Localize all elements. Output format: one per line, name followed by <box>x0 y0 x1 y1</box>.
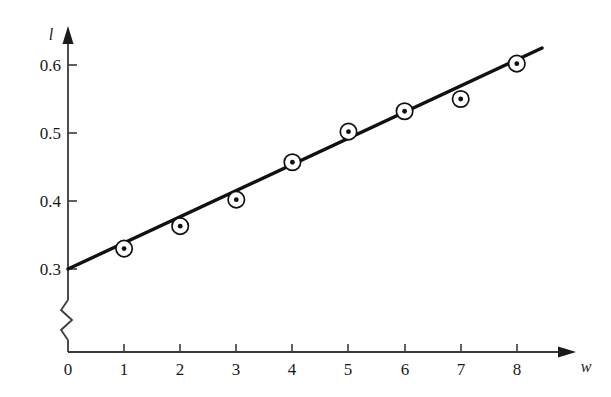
x-tick-label-8: 8 <box>513 360 522 379</box>
x-tick-label-6: 6 <box>401 360 410 379</box>
y-axis-arrow-icon <box>63 26 74 44</box>
data-point-marker <box>340 123 356 139</box>
x-axis-arrow-icon <box>558 347 576 358</box>
x-tick-label-5: 5 <box>344 360 353 379</box>
fitted-trend-line <box>68 48 542 269</box>
y-tick-label-06: 0.6 <box>40 56 61 75</box>
x-tick-label-0: 0 <box>64 360 73 379</box>
x-tick-label-1: 1 <box>120 360 129 379</box>
marker-center-dot <box>178 224 183 229</box>
data-point-marker <box>116 240 132 256</box>
marker-center-dot <box>234 197 239 202</box>
x-axis-title: w <box>581 358 592 375</box>
data-point-marker <box>453 91 469 107</box>
marker-center-dot <box>122 246 127 251</box>
marker-center-dot <box>346 129 351 134</box>
y-tick-label-04: 0.4 <box>40 192 62 211</box>
x-tick-group: 0 1 2 3 4 5 6 7 8 <box>64 344 522 379</box>
y-axis-title: l <box>49 26 54 43</box>
x-tick-label-7: 7 <box>457 360 466 379</box>
y-axis-break-zigzag <box>61 300 72 340</box>
fit-line-group <box>68 48 542 269</box>
marker-center-dot <box>458 97 463 102</box>
y-tick-label-05: 0.5 <box>40 124 61 143</box>
y-tick-group: 0.6 0.5 0.4 0.3 <box>40 56 77 279</box>
marker-center-dot <box>290 160 295 165</box>
marker-center-dot <box>514 61 519 66</box>
x-tick-label-4: 4 <box>288 360 297 379</box>
y-tick-label-03: 0.3 <box>40 260 61 279</box>
x-tick-label-2: 2 <box>176 360 185 379</box>
data-point-marker <box>396 103 412 119</box>
marker-center-dot <box>402 109 407 114</box>
x-tick-label-3: 3 <box>232 360 241 379</box>
scatter-plot-svg: l 0.6 0.5 0.4 0.3 w 0 <box>0 0 611 397</box>
chart-figure: l 0.6 0.5 0.4 0.3 w 0 <box>0 0 611 397</box>
data-point-marker <box>172 218 188 234</box>
data-point-marker <box>509 55 525 71</box>
data-point-marker <box>284 154 300 170</box>
data-point-marker <box>228 191 244 207</box>
